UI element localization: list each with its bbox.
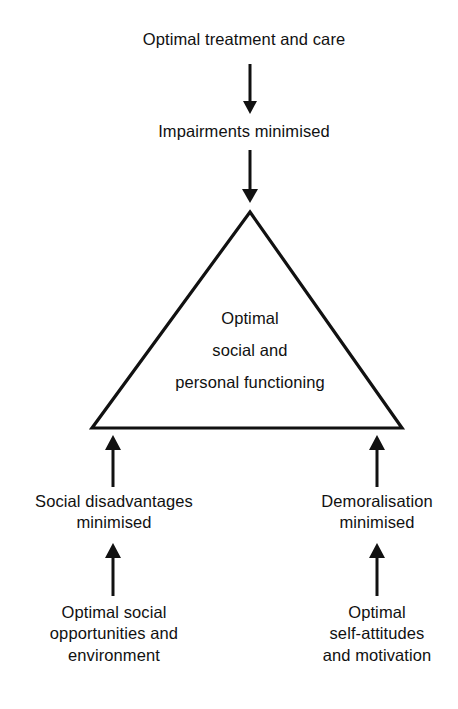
- arrow-treatment-to-impairments: [243, 64, 257, 114]
- arrow-impairments-to-triangle: [242, 150, 258, 203]
- node-optimal-treatment-and-care: Optimal treatment and care: [79, 29, 409, 50]
- diagram-canvas: Optimal treatment and care Impairments m…: [0, 0, 458, 709]
- node-optimal-social-opportunities-and-environment: Optimal social opportunities and environ…: [8, 602, 220, 666]
- node-optimal-social-and-personal-functioning: Optimal social and personal functioning: [130, 302, 370, 399]
- arrow-social-to-triangle: [105, 435, 121, 487]
- arrow-demoralisation-to-triangle: [369, 435, 385, 487]
- node-demoralisation-minimised: Demoralisation minimised: [282, 491, 458, 534]
- node-impairments-minimised: Impairments minimised: [79, 121, 409, 142]
- arrow-selfattitudes-to-demoralisation: [369, 543, 385, 596]
- arrow-opportunities-to-social: [105, 543, 121, 596]
- node-social-disadvantages-minimised: Social disadvantages minimised: [8, 491, 220, 534]
- node-optimal-self-attitudes-and-motivation: Optimal self-attitudes and motivation: [282, 602, 458, 666]
